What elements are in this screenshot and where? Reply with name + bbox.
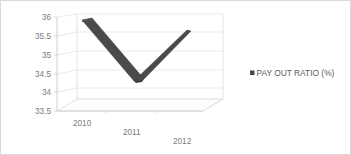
x-axis-label-2: 2012: [173, 137, 192, 146]
gridline-34: [57, 88, 223, 92]
x-axis-label-1: 2011: [123, 128, 141, 137]
x-axis-labels: 2010 2011 2012: [73, 119, 192, 146]
x-axis-label-0: 2010: [73, 119, 92, 128]
legend[interactable]: PAY OUT RATIO (%): [250, 68, 335, 78]
y-axis-label-3: 34.5: [35, 70, 51, 79]
y-axis-label-2: 35: [42, 51, 52, 60]
series-pay-out-ratio: [82, 18, 191, 83]
gridline-36: [57, 14, 223, 17]
gridline-35: [57, 51, 223, 55]
y-axis-label-4: 34: [42, 88, 52, 97]
floor-plane: [57, 99, 223, 111]
legend-marker-icon: [250, 71, 255, 76]
chart-plot-svg: 36 35.5 35 34.5 34 33.5 2010 2011 2012: [1, 1, 351, 155]
chart-container: 36 35.5 35 34.5 34 33.5 2010 2011 2012: [0, 0, 351, 155]
legend-label-pay-out-ratio[interactable]: PAY OUT RATIO (%): [257, 68, 335, 78]
y-axis-label-0: 36: [42, 13, 52, 22]
series-segment-2011-2012: [134, 30, 191, 81]
y-axis-label-1: 35.5: [35, 32, 51, 41]
gridline-34p5: [57, 70, 223, 74]
gridline-35p5: [57, 32, 223, 36]
gridline-group: [57, 14, 223, 111]
y-axis-label-5: 33.5: [35, 107, 51, 116]
y-axis-labels: 36 35.5 35 34.5 34 33.5: [35, 13, 51, 116]
series-segment-2010-2011: [82, 18, 144, 81]
